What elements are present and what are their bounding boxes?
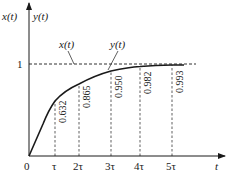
x-tick-1: τ (52, 160, 57, 172)
x-tick-2: 2τ (73, 160, 84, 172)
y-tick-one: 1 (17, 58, 23, 70)
y-axis-label-right: y(t) (32, 10, 49, 23)
x-tick-4: 4τ (134, 160, 145, 172)
value-label-1: 0.632 (57, 101, 68, 124)
x-axis-label: t (215, 160, 219, 172)
x-tick-5: 5τ (166, 160, 177, 172)
y-t-leader (108, 51, 118, 70)
x-t-leader (68, 51, 74, 64)
y-t-label: y(t) (109, 38, 126, 51)
x-t-label: x(t) (58, 38, 75, 51)
x-tick-3: 3τ (105, 160, 116, 172)
value-label-5: 0.993 (174, 71, 185, 94)
y-t-curve (29, 65, 184, 156)
y-axis-label-left: x(t) (1, 10, 18, 23)
value-label-4: 0.982 (142, 72, 153, 95)
value-label-3: 0.950 (113, 76, 124, 99)
step-response-chart: x(t) y(t) t 1 x(t) y(t) 0.632 0.865 0.95… (0, 0, 231, 177)
x-tick-0: 0 (24, 160, 30, 172)
value-label-2: 0.865 (81, 86, 92, 109)
